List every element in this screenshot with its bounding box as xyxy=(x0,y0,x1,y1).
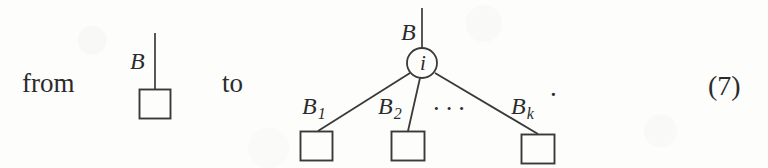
branch-edge-2 xyxy=(408,78,420,131)
child-box-k xyxy=(522,135,555,164)
child-box-2 xyxy=(392,132,425,161)
branch-edge-k xyxy=(435,73,538,134)
figure-linework xyxy=(0,0,768,168)
branch-edge-1 xyxy=(318,73,410,131)
node-circle-i xyxy=(407,48,437,78)
figure-canvas: from to B B i B1 B2 ··· Bk . (7) xyxy=(0,0,768,168)
left-hole-box xyxy=(140,90,171,119)
child-box-1 xyxy=(301,132,333,161)
